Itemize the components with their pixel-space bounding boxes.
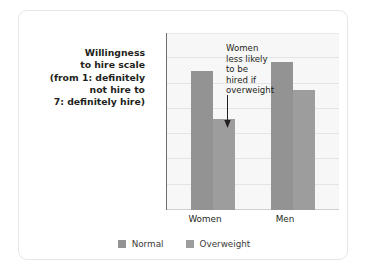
down-arrow-icon bbox=[223, 95, 232, 129]
legend-swatch-normal bbox=[118, 240, 126, 248]
x-tick-women: Women bbox=[170, 214, 240, 224]
annotation-line-2: to be bbox=[226, 64, 298, 75]
annotation-line-3: hired if bbox=[226, 75, 298, 86]
x-tick-men: Men bbox=[250, 214, 320, 224]
legend-label-overweight: Overweight bbox=[200, 239, 251, 249]
legend-label-normal: Normal bbox=[132, 239, 164, 249]
bar-women-normal bbox=[191, 71, 213, 210]
chart-card: Willingness to hire scale (from 1: defin… bbox=[18, 10, 348, 260]
y-axis-label-line-0: Willingness bbox=[27, 47, 145, 59]
legend-item-normal: Normal bbox=[118, 239, 164, 249]
annotation-line-0: Women bbox=[226, 43, 298, 54]
annotation-line-4: overweight bbox=[226, 85, 298, 96]
y-axis-label-line-3: not hire to bbox=[27, 84, 145, 96]
y-axis-label-line-1: to hire scale bbox=[27, 59, 145, 71]
annotation-line-1: less likely bbox=[226, 54, 298, 65]
bar-women-overweight bbox=[213, 119, 235, 210]
annotation-text: Women less likely to be hired if overwei… bbox=[226, 43, 298, 96]
y-axis-label-line-4: 7: definitely hire) bbox=[27, 96, 145, 108]
legend-item-overweight: Overweight bbox=[186, 239, 251, 249]
y-axis-label-line-2: (from 1: definitely bbox=[27, 72, 145, 84]
chart-legend: Normal Overweight bbox=[19, 239, 348, 249]
legend-swatch-overweight bbox=[186, 240, 194, 248]
y-axis-label: Willingness to hire scale (from 1: defin… bbox=[27, 47, 145, 108]
bar-men-overweight bbox=[293, 90, 315, 210]
